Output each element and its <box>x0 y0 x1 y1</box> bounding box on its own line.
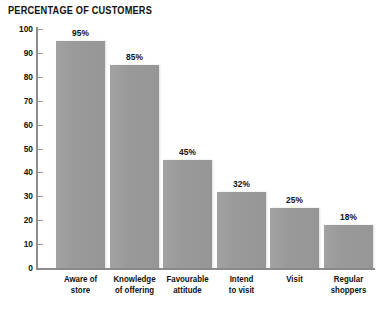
bar-value-label: 25% <box>272 195 318 205</box>
bar <box>56 41 105 268</box>
y-axis-tick-mark <box>38 125 43 126</box>
y-axis-tick-mark <box>38 196 43 197</box>
bar <box>270 208 319 268</box>
bar-value-label: 18% <box>326 212 372 222</box>
bar-value-label: 32% <box>219 179 265 189</box>
x-axis-category-label: Visit <box>267 274 324 285</box>
y-axis-tick-label: 70 <box>2 96 33 106</box>
y-axis-tick-mark <box>38 77 43 78</box>
x-axis-category-label: Favourable attitude <box>159 274 216 296</box>
bar-value-label: 95% <box>58 28 104 38</box>
x-axis-category-label: Intend to visit <box>213 274 270 296</box>
y-axis-tick-mark <box>38 149 43 150</box>
y-axis-tick-mark <box>38 53 43 54</box>
bar <box>217 192 266 268</box>
bar <box>163 160 212 268</box>
y-axis-tick-mark <box>38 101 43 102</box>
y-axis-tick-label: 40 <box>2 167 33 177</box>
y-axis-tick-mark <box>38 244 43 245</box>
bar-value-label: 45% <box>165 147 211 157</box>
y-axis-tick-label: 10 <box>2 239 33 249</box>
chart-title: PERCENTAGE OF CUSTOMERS <box>8 5 152 16</box>
bar <box>324 225 373 268</box>
y-axis-tick-label: 50 <box>2 144 33 154</box>
y-axis-tick-mark <box>38 220 43 221</box>
x-axis-category-label: Aware of store <box>52 274 109 296</box>
y-axis-tick-mark <box>38 29 43 30</box>
y-axis-tick-label: 0 <box>2 263 33 273</box>
y-axis-tick-label: 60 <box>2 120 33 130</box>
bar <box>110 65 159 268</box>
x-axis-line <box>36 268 375 270</box>
y-axis-tick-label: 100 <box>2 24 33 34</box>
y-axis-tick-mark <box>38 172 43 173</box>
bar-chart: PERCENTAGE OF CUSTOMERS 0102030405060708… <box>0 0 383 311</box>
x-axis-category-label: Knowledge of offering <box>106 274 163 296</box>
y-axis-tick-label: 80 <box>2 72 33 82</box>
x-axis-category-label: Regular shoppers <box>320 274 377 296</box>
y-axis-tick-label: 90 <box>2 48 33 58</box>
bar-value-label: 85% <box>111 52 157 62</box>
y-axis-tick-label: 30 <box>2 191 33 201</box>
y-axis-tick-label: 20 <box>2 215 33 225</box>
